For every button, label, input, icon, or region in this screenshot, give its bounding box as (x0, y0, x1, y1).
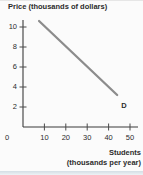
y-tick-label: 2 (2, 102, 17, 112)
x-axis-title-line2: (thousands per year) (67, 158, 141, 168)
x-tick-label: 40 (100, 133, 118, 142)
x-axis-title-line1: Students (67, 148, 141, 158)
curve-label-D: D (121, 101, 131, 110)
x-axis-title: Students (thousands per year) (67, 148, 141, 168)
y-tick-label: 6 (2, 62, 17, 72)
demand-curve-figure: Price (thousands of dollars) 0 Students … (0, 0, 143, 175)
x-tick-label: 30 (78, 133, 96, 142)
footer-rule-band (0, 171, 143, 175)
x-tick-label: 50 (121, 133, 139, 142)
y-tick-label: 4 (2, 82, 17, 92)
origin-label: 0 (2, 133, 12, 142)
demand-curve-line (39, 21, 117, 95)
y-tick-label: 8 (2, 42, 17, 52)
x-tick-label: 20 (57, 133, 75, 142)
y-tick-label: 10 (2, 22, 17, 32)
x-tick-label: 10 (35, 133, 53, 142)
